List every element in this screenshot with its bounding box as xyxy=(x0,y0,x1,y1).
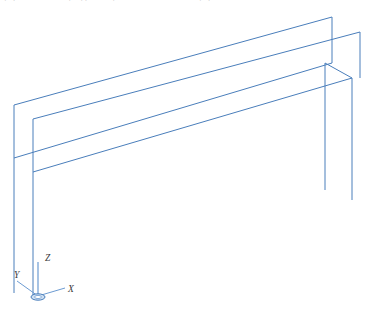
edge-top-back-lower xyxy=(14,63,332,158)
origin-marker-inner-icon xyxy=(35,295,42,298)
panel-upper-edges xyxy=(14,17,360,172)
z-axis-label: Z xyxy=(45,253,51,263)
panel-right-end xyxy=(325,17,360,200)
axis-triad[interactable]: X Y Z xyxy=(14,253,75,300)
edge-top-back-upper xyxy=(14,17,332,105)
wireframe-model: X Y Z xyxy=(0,0,367,312)
panel-left-end xyxy=(14,105,33,296)
edge-right-cap xyxy=(325,63,352,78)
edge-top-front-lower xyxy=(33,78,352,172)
edge-top-front-upper xyxy=(33,32,360,119)
cad-viewport[interactable]: X Y Z 图 3-2 剪力墙结构的墙肢及连梁计算简图 xyxy=(0,0,367,312)
y-axis-label: Y xyxy=(14,270,21,280)
x-axis-label: X xyxy=(67,284,75,294)
